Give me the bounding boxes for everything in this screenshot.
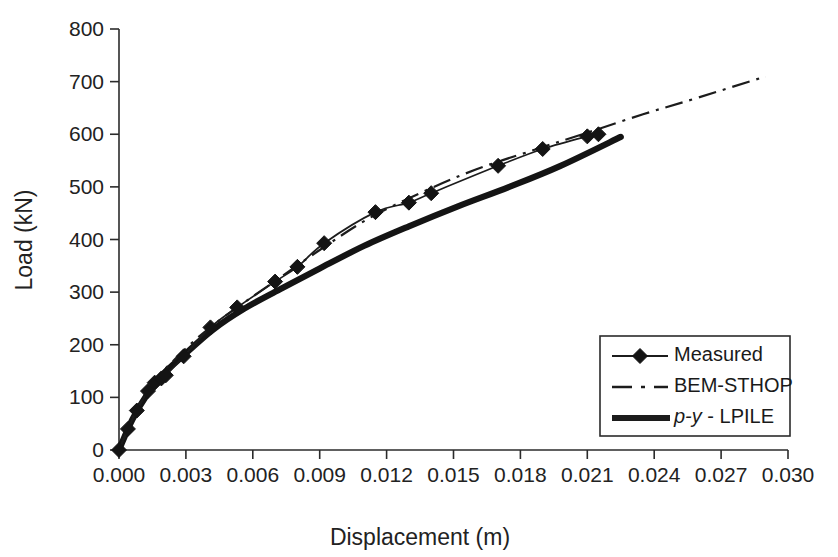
x-tick-label-6: 0.018 bbox=[494, 463, 547, 486]
x-tick-label-3: 0.009 bbox=[293, 463, 346, 486]
chart-container: Load (kN) Displacement (m) 0.0000.0030.0… bbox=[0, 0, 838, 557]
data-marker-measured bbox=[368, 205, 383, 220]
load-displacement-chart: Load (kN) Displacement (m) 0.0000.0030.0… bbox=[0, 0, 838, 557]
x-axis-title: Displacement (m) bbox=[330, 524, 510, 550]
series-line-lpile bbox=[119, 137, 621, 450]
y-tick-label-8: 800 bbox=[69, 17, 104, 40]
x-tick-label-7: 0.021 bbox=[561, 463, 614, 486]
data-marker-measured bbox=[424, 186, 439, 201]
data-marker-measured bbox=[535, 141, 550, 156]
x-tick-label-10: 0.030 bbox=[762, 463, 815, 486]
legend-label-rest: - LPILE bbox=[702, 405, 774, 427]
y-tick-label-5: 500 bbox=[69, 175, 104, 198]
data-marker-measured bbox=[317, 236, 332, 251]
y-tick-label-6: 600 bbox=[69, 122, 104, 145]
legend-label-italic: p-y bbox=[673, 405, 703, 427]
x-tick-label-8: 0.024 bbox=[628, 463, 681, 486]
y-axis-title: Load (kN) bbox=[11, 190, 37, 291]
y-tick-labels: 0100200300400500600700800 bbox=[69, 17, 104, 461]
x-tick-label-0: 0.000 bbox=[93, 463, 146, 486]
y-tick-label-4: 400 bbox=[69, 228, 104, 251]
x-tick-label-2: 0.006 bbox=[227, 463, 280, 486]
y-tick-label-1: 100 bbox=[69, 385, 104, 408]
x-tick-label-5: 0.015 bbox=[427, 463, 480, 486]
legend-label-1: BEM-STHOP bbox=[674, 374, 793, 396]
x-tick-label-9: 0.027 bbox=[695, 463, 748, 486]
y-tick-label-0: 0 bbox=[92, 438, 104, 461]
data-marker-measured bbox=[401, 195, 416, 210]
data-marker-measured bbox=[591, 127, 606, 142]
x-tick-label-1: 0.003 bbox=[160, 463, 213, 486]
y-tick-label-7: 700 bbox=[69, 70, 104, 93]
x-tick-label-4: 0.012 bbox=[360, 463, 413, 486]
x-tick-labels: 0.0000.0030.0060.0090.0120.0150.0180.021… bbox=[93, 463, 815, 486]
legend-label-2: p-y - LPILE bbox=[673, 405, 774, 427]
legend-label-0: Measured bbox=[674, 343, 763, 365]
y-tick-label-3: 300 bbox=[69, 280, 104, 303]
legend: MeasuredBEM-STHOPp-y - LPILE bbox=[600, 336, 793, 436]
y-tick-label-2: 200 bbox=[69, 333, 104, 356]
